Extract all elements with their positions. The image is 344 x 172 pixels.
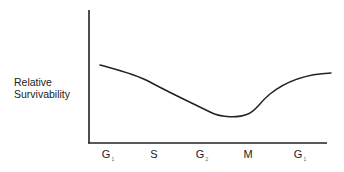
x-tick-g1-start: G1 — [102, 148, 114, 162]
plot-area — [0, 0, 344, 172]
x-tick-label: M — [243, 148, 252, 160]
x-tick-g1-end: G1 — [294, 148, 306, 162]
x-tick-s: S — [150, 148, 157, 160]
x-tick-g2: G2 — [196, 148, 208, 162]
x-tick-m: M — [243, 148, 252, 160]
x-tick-label: G — [102, 148, 111, 160]
x-tick-label: G — [196, 148, 205, 160]
x-tick-subscript: 2 — [205, 156, 208, 162]
x-tick-label: G — [294, 148, 303, 160]
survivability-curve — [100, 65, 331, 117]
x-tick-subscript: 1 — [111, 156, 114, 162]
x-tick-subscript: 1 — [303, 156, 306, 162]
x-tick-label: S — [150, 148, 157, 160]
